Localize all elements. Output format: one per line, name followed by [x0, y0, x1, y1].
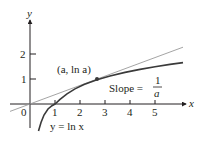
point-label: (a, ln a) — [57, 63, 91, 76]
x-ticks — [55, 100, 155, 104]
x-tick-3: 3 — [102, 106, 108, 118]
slope-fraction-denominator: a — [154, 87, 160, 99]
origin-label: 0 — [21, 106, 27, 118]
y-tick-1: 1 — [21, 73, 27, 85]
x-tick-5: 5 — [152, 106, 158, 118]
slope-fraction-numerator: 1 — [155, 74, 161, 86]
slope-label: Slope = — [109, 82, 143, 94]
y-ticks — [30, 54, 36, 79]
curve-label: y = ln x — [50, 120, 85, 132]
x-axis-label: x — [188, 97, 194, 109]
x-tick-2: 2 — [77, 106, 83, 118]
y-axis-label: y — [26, 7, 32, 19]
y-tick-2: 2 — [20, 48, 26, 60]
ln-tangent-diagram: 1 2 3 4 5 1 2 0 x y (a, ln a) y = ln x S… — [0, 0, 209, 141]
tangent-point — [95, 77, 99, 81]
x-tick-1: 1 — [52, 106, 58, 118]
x-tick-4: 4 — [127, 106, 133, 118]
